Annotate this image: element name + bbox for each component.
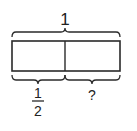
tape-diagram: 1 1 2 ?: [0, 0, 137, 131]
top-brace: [12, 28, 120, 37]
bottom-brace-left: [12, 75, 65, 84]
fraction-denominator: 2: [34, 103, 42, 119]
total-label: 1: [60, 10, 69, 29]
tape-bar: [12, 41, 120, 71]
fraction-numerator: 1: [34, 85, 42, 101]
unknown-part-label: ?: [88, 87, 96, 103]
bottom-brace-right: [65, 75, 120, 84]
